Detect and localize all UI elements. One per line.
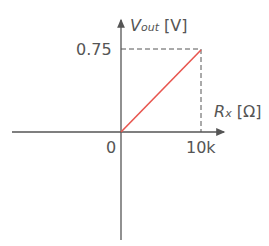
y-axis-symbol: V bbox=[130, 16, 141, 35]
x-axis-label: Rx [Ω] bbox=[214, 104, 261, 120]
x-axis-unit: [Ω] bbox=[237, 102, 262, 121]
y-tick-label: 0.75 bbox=[76, 42, 112, 58]
data-line bbox=[121, 50, 201, 132]
chart-canvas bbox=[0, 0, 269, 246]
x-axis-symbol: R bbox=[214, 102, 225, 121]
y-axis-label: Vout [V] bbox=[130, 18, 188, 34]
y-axis-subscript: out bbox=[141, 21, 159, 34]
origin-label: 0 bbox=[106, 140, 116, 156]
x-tick-label: 10k bbox=[186, 140, 216, 156]
y-axis-unit: [V] bbox=[164, 16, 187, 35]
x-axis-subscript: x bbox=[225, 107, 232, 120]
